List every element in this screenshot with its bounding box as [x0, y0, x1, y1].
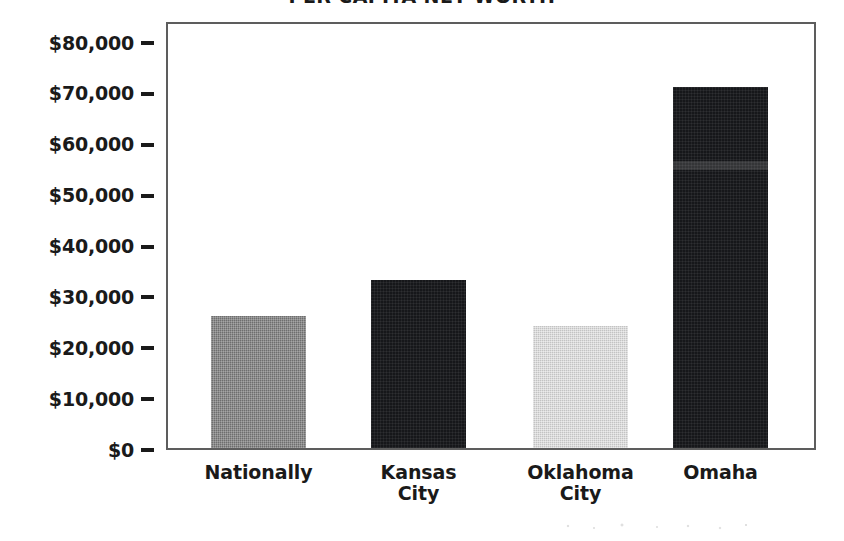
x-axis-label-omaha: Omaha [631, 462, 811, 483]
scan-speckle [560, 522, 760, 531]
y-axis-tick: $10,000 [0, 390, 160, 408]
y-axis-tick: $0 [0, 441, 160, 459]
bar-omaha [673, 87, 768, 448]
y-axis-tick-label: $0 [108, 441, 134, 460]
y-axis-tick: $80,000 [0, 34, 160, 52]
y-axis-tick: $50,000 [0, 187, 160, 205]
y-axis-tick-mark [141, 143, 154, 147]
y-axis-tick-label: $50,000 [49, 186, 134, 205]
x-axis-label-line: City [329, 483, 509, 504]
y-axis-tick-label: $30,000 [49, 288, 134, 307]
y-axis-tick-mark [141, 194, 154, 198]
chart-container: PER CAPITA NET WORTH $80,000$70,000$60,0… [0, 0, 844, 541]
y-axis-tick-label: $60,000 [49, 135, 134, 154]
y-axis-tick: $70,000 [0, 85, 160, 103]
x-axis-label-kansas-city: KansasCity [329, 462, 509, 505]
scan-artifact-band [673, 161, 768, 170]
y-axis-tick: $60,000 [0, 136, 160, 154]
plot-area [166, 22, 816, 450]
y-axis-tick: $30,000 [0, 288, 160, 306]
y-axis-tick-mark [141, 448, 154, 452]
y-axis-tick: $20,000 [0, 339, 160, 357]
bar-oklahoma-city [533, 326, 628, 448]
x-axis-label-line: Omaha [631, 462, 811, 483]
bars-layer [168, 24, 814, 448]
bar-nationally [211, 316, 306, 448]
x-axis-label-line: City [491, 483, 671, 504]
y-axis-tick-mark [141, 295, 154, 299]
y-axis-tick-label: $70,000 [49, 84, 134, 103]
y-axis-tick-label: $20,000 [49, 339, 134, 358]
y-axis-tick-mark [141, 92, 154, 96]
y-axis-tick-label: $10,000 [49, 390, 134, 409]
y-axis: $80,000$70,000$60,000$50,000$40,000$30,0… [0, 0, 166, 541]
y-axis-tick-mark [141, 41, 154, 45]
y-axis-tick-mark [141, 346, 154, 350]
x-axis-label-line: Kansas [329, 462, 509, 483]
y-axis-tick-label: $80,000 [49, 34, 134, 53]
y-axis-tick-label: $40,000 [49, 237, 134, 256]
bar-kansas-city [371, 280, 466, 448]
y-axis-tick-mark [141, 245, 154, 249]
x-axis-label-line: Nationally [169, 462, 349, 483]
y-axis-tick-mark [141, 397, 154, 401]
x-axis-label-nationally: Nationally [169, 462, 349, 483]
y-axis-tick: $40,000 [0, 238, 160, 256]
